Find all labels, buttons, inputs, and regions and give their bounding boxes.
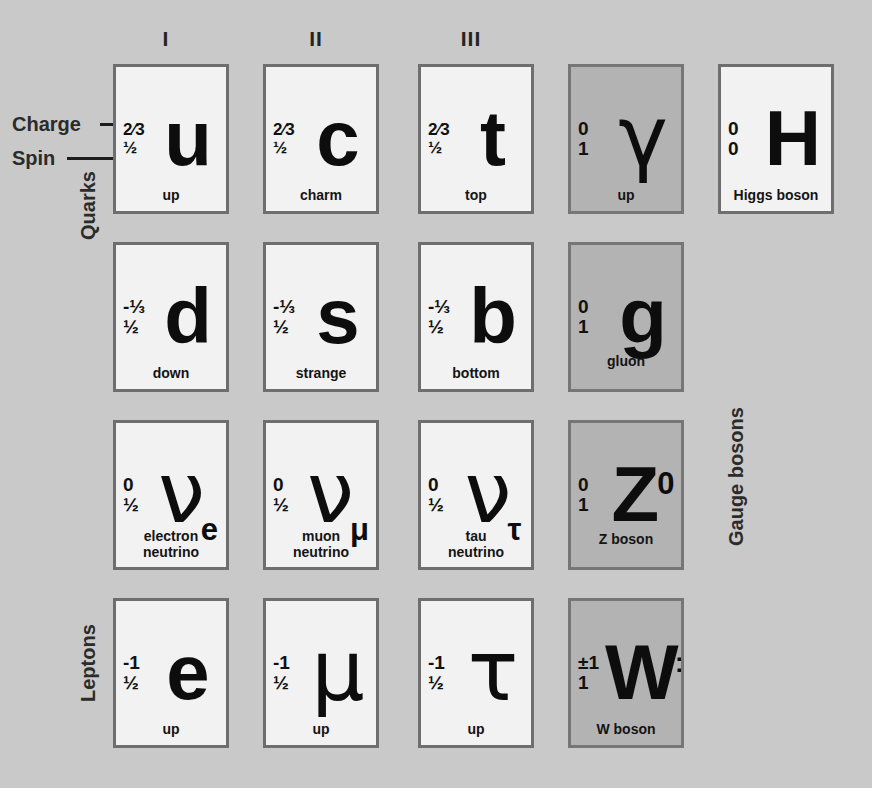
particle-symbol-glyph: μ <box>311 622 364 720</box>
charge-value: ±1 <box>578 653 599 673</box>
particle-symbol-glyph: b <box>469 272 517 360</box>
spin-value: 1 <box>578 317 589 337</box>
particle-properties: 2⁄3½ <box>123 121 145 157</box>
charge-value: -1 <box>273 653 290 673</box>
group-label-gauge-bosons: Gauge bosons <box>726 407 746 546</box>
particle-card-tau-neutrino[interactable]: 0½ντtauneutrino <box>418 420 534 570</box>
particle-symbol-glyph: H <box>765 94 821 182</box>
particle-card-photon[interactable]: 01γup <box>568 64 684 214</box>
particle-card-electron-neutrino[interactable]: 0½νeelectronneutrino <box>113 420 229 570</box>
charge-value: -⅓ <box>428 297 450 317</box>
particle-symbol-glyph: Z <box>612 450 660 538</box>
particle-name-line1: tau <box>421 528 531 544</box>
charge-value: 0 <box>273 475 284 495</box>
spin-value: 1 <box>578 139 589 159</box>
particle-card-higgs-boson[interactable]: 00HHiggs boson <box>718 64 834 214</box>
particle-name-line1: top <box>421 187 531 203</box>
column-header-iii: III <box>413 28 529 49</box>
charge-value: 0 <box>578 475 589 495</box>
charge-value: 0 <box>728 119 739 139</box>
particle-properties: 0½ <box>273 475 289 515</box>
spin-value: ½ <box>273 139 287 157</box>
particle-name: strange <box>266 365 376 381</box>
particle-name-line1: up <box>266 721 376 737</box>
spin-value: ½ <box>428 673 444 693</box>
particle-properties: 01 <box>578 475 589 515</box>
particle-card-strange-quark[interactable]: -⅓½sstrange <box>263 242 379 392</box>
particle-card-muon-neutrino[interactable]: 0½νμmuonneutrino <box>263 420 379 570</box>
particle-properties: 01 <box>578 119 589 159</box>
particle-name: tauneutrino <box>421 528 531 560</box>
particle-properties: 2⁄3½ <box>428 121 450 157</box>
charge-value: -⅓ <box>273 297 295 317</box>
particle-properties: 2⁄3½ <box>273 121 295 157</box>
charge-value: 0 <box>578 119 589 139</box>
spin-value: ½ <box>428 317 444 337</box>
particle-symbol-glyph: g <box>619 272 667 360</box>
particle-name-line1: gluon <box>571 353 681 369</box>
particle-card-electron[interactable]: -1½eup <box>113 598 229 748</box>
particle-properties: -1½ <box>123 653 140 693</box>
particle-name: up <box>266 721 376 737</box>
particle-symbol-glyph: τ <box>468 622 519 720</box>
spin-value: 1 <box>578 495 589 515</box>
particle-name: Z boson <box>571 531 681 547</box>
particle-symbol-glyph: d <box>164 272 212 360</box>
particle-properties: -1½ <box>428 653 445 693</box>
charge-value: -⅓ <box>123 297 145 317</box>
particle-name: gluon <box>571 353 681 369</box>
spin-value: 1 <box>578 673 589 693</box>
particle-name-line1: up <box>421 721 531 737</box>
particle-card-bottom-quark[interactable]: -⅓½bbottom <box>418 242 534 392</box>
charge-value: 2⁄3 <box>273 121 295 139</box>
particle-name-line2: neutrino <box>116 544 226 560</box>
particle-card-charm-quark[interactable]: 2⁄3½ccharm <box>263 64 379 214</box>
spin-value: ½ <box>273 673 289 693</box>
particle-properties: -⅓½ <box>428 297 450 337</box>
group-label-quarks: Quarks <box>78 171 98 240</box>
particle-card-tau[interactable]: -1½τup <box>418 598 534 748</box>
particle-properties: 01 <box>578 297 589 337</box>
particle-name-line1: W boson <box>571 721 681 737</box>
particle-symbol-glyph: e <box>166 628 209 716</box>
charge-value: -1 <box>123 653 140 673</box>
particle-name: charm <box>266 187 376 203</box>
particle-name-line1: up <box>571 187 681 203</box>
particle-symbol-superscript: 0 <box>657 466 674 501</box>
particle-name: up <box>421 721 531 737</box>
particle-name: electronneutrino <box>116 528 226 560</box>
particle-properties: 0½ <box>123 475 139 515</box>
particle-card-up-quark[interactable]: 2⁄3½uup <box>113 64 229 214</box>
charge-value: -1 <box>428 653 445 673</box>
charge-value: 0 <box>428 475 439 495</box>
particle-name-line1: down <box>116 365 226 381</box>
particle-properties: -⅓½ <box>273 297 295 337</box>
particle-name-line2: neutrino <box>421 544 531 560</box>
particle-properties: -⅓½ <box>123 297 145 337</box>
charge-value: 0 <box>578 297 589 317</box>
particle-name-line1: strange <box>266 365 376 381</box>
particle-card-gluon[interactable]: 01ggluon <box>568 242 684 392</box>
particle-card-top-quark[interactable]: 2⁄3½ttop <box>418 64 534 214</box>
particle-card-muon[interactable]: -1½μup <box>263 598 379 748</box>
particle-name-line1: up <box>116 721 226 737</box>
particle-properties: ±11 <box>578 653 599 693</box>
particle-card-down-quark[interactable]: -⅓½ddown <box>113 242 229 392</box>
particle-name: up <box>116 721 226 737</box>
charge-value: 2⁄3 <box>123 121 145 139</box>
particle-name-line1: bottom <box>421 365 531 381</box>
particle-symbol-superscript: ± <box>677 644 684 679</box>
particle-name-line1: Higgs boson <box>721 187 831 203</box>
particle-name-line1: muon <box>266 528 376 544</box>
particle-symbol-glyph: u <box>164 94 212 182</box>
charge-value: 2⁄3 <box>428 121 450 139</box>
particle-card-w-boson[interactable]: ±11W±W boson <box>568 598 684 748</box>
particle-card-z-boson[interactable]: 01Z0Z boson <box>568 420 684 570</box>
particle-name-line1: charm <box>266 187 376 203</box>
particle-properties: 0½ <box>428 475 444 515</box>
charge-annotation-label: Charge <box>12 114 81 134</box>
particle-name: muonneutrino <box>266 528 376 560</box>
spin-value: ½ <box>123 317 139 337</box>
particle-symbol-glyph: c <box>316 94 359 182</box>
particle-name: up <box>116 187 226 203</box>
